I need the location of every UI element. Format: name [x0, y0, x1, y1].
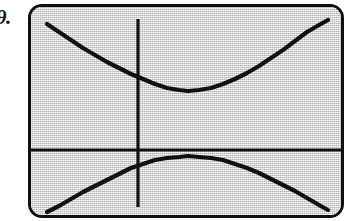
- hyperbola-upper-branch: [47, 20, 328, 91]
- graph-plot: [31, 7, 341, 215]
- calculator-screen: [28, 4, 344, 218]
- hyperbola-lower-branch: [47, 156, 328, 212]
- exercise-number: 9.: [0, 2, 24, 32]
